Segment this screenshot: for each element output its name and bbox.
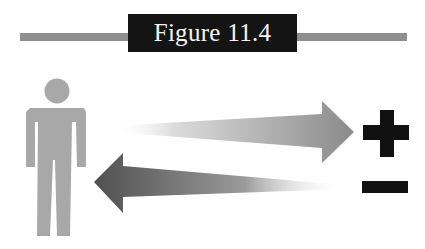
plus-icon xyxy=(363,110,409,157)
arrow-right-icon xyxy=(112,101,354,163)
arrow-left-icon xyxy=(94,153,345,213)
minus-icon xyxy=(362,181,408,193)
person-icon xyxy=(26,79,86,237)
diagram xyxy=(0,0,425,249)
